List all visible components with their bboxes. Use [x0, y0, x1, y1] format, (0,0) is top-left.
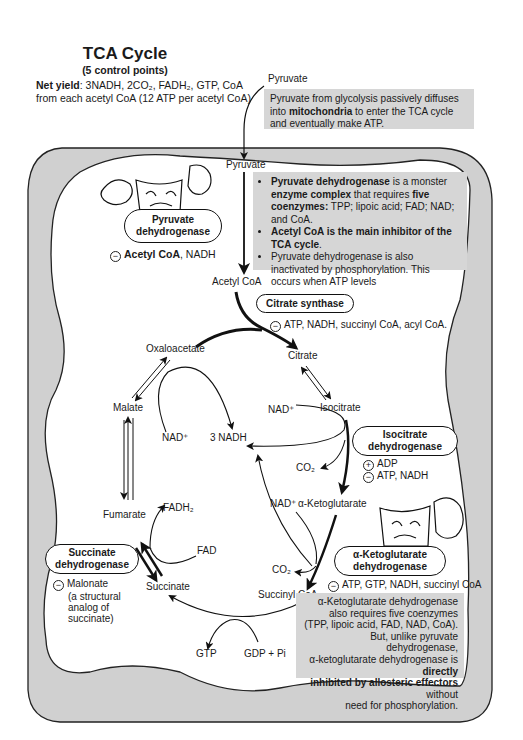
- pdh-note-bullet-2: Acetyl CoA is the main inhibitor of the …: [271, 226, 461, 251]
- alpha-kg-dehydrogenase-enzyme[interactable]: α-Ketoglutarate dehydrogenase: [334, 546, 446, 576]
- isocitrate-dh-inhibitors: −ATP, NADH: [363, 470, 428, 483]
- pdh-note-bullet-3: Pyruvate dehydrogenase is also inactivat…: [271, 251, 461, 289]
- nad-akg-label: NAD⁺: [270, 498, 296, 509]
- pyruvate-dehydrogenase-enzyme[interactable]: Pyruvate dehydrogenase: [124, 209, 222, 243]
- pyruvate-cytosol-label: Pyruvate: [268, 73, 307, 84]
- fumarate-label: Fumarate: [103, 509, 146, 520]
- gdp-pi-label: GDP + Pi: [244, 648, 286, 659]
- gtp-label: GTP: [196, 648, 217, 659]
- three-nadh-label: 3 NADH: [210, 432, 247, 443]
- nad-isocitrate-label: NAD⁺: [268, 404, 294, 415]
- isocitrate-label: Isocitrate: [320, 402, 361, 413]
- pyruvate-matrix-label: Pyruvate: [226, 159, 265, 170]
- inhibition-icon: −: [328, 581, 339, 592]
- citrate-label: Citrate: [288, 350, 317, 361]
- pyruvate-entry-note: Pyruvate from glycolysis passively diffu…: [264, 89, 474, 129]
- succinate-label: Succinate: [146, 581, 190, 592]
- mitochondria-term: mitochondria: [289, 106, 352, 117]
- co2-akg-label: CO₂: [272, 564, 291, 575]
- inhibition-icon: −: [53, 580, 64, 591]
- malate-label: Malate: [113, 402, 143, 413]
- oxaloacetate-label: Oxaloacetate: [146, 343, 205, 354]
- pdh-note-bullet-1: Pyruvate dehydrogenase is a monster enzy…: [271, 176, 461, 226]
- isocitrate-dehydrogenase-enzyme[interactable]: Isocitrate dehydrogenase: [352, 426, 458, 456]
- inhibition-icon: −: [270, 321, 281, 332]
- citrate-synthase-enzyme[interactable]: Citrate synthase: [256, 294, 354, 313]
- acetyl-coa-label: Acetyl CoA: [212, 276, 261, 287]
- inhibition-icon: −: [363, 472, 374, 483]
- nad-malate-label: NAD⁺: [162, 432, 188, 443]
- citrate-synthase-inhibitors: −ATP, NADH, succinyl CoA, acyl CoA.: [270, 319, 447, 332]
- alpha-ketoglutarate-label: α-Ketoglutarate: [298, 498, 367, 509]
- pdh-inhibitors: −Acetyl CoA, NADH: [110, 248, 216, 262]
- fadh2-label: FADH₂: [163, 502, 194, 513]
- succinate-dehydrogenase-enzyme[interactable]: Succinate dehydrogenase: [45, 544, 139, 574]
- fad-label: FAD: [197, 545, 216, 556]
- alpha-kg-dh-note: α-Ketoglutarate dehydrogenase also requi…: [296, 593, 464, 678]
- alpha-kg-dh-inhibitors: −ATP, GTP, NADH, succinyl CoA: [328, 579, 482, 592]
- succinate-dh-inhibitor: −Malonate (a structural analog of succin…: [53, 578, 121, 624]
- inhibition-icon: −: [110, 251, 121, 262]
- co2-isocitrate-label: CO₂: [296, 462, 315, 473]
- pdh-note: Pyruvate dehydrogenase is a monster enzy…: [253, 172, 467, 270]
